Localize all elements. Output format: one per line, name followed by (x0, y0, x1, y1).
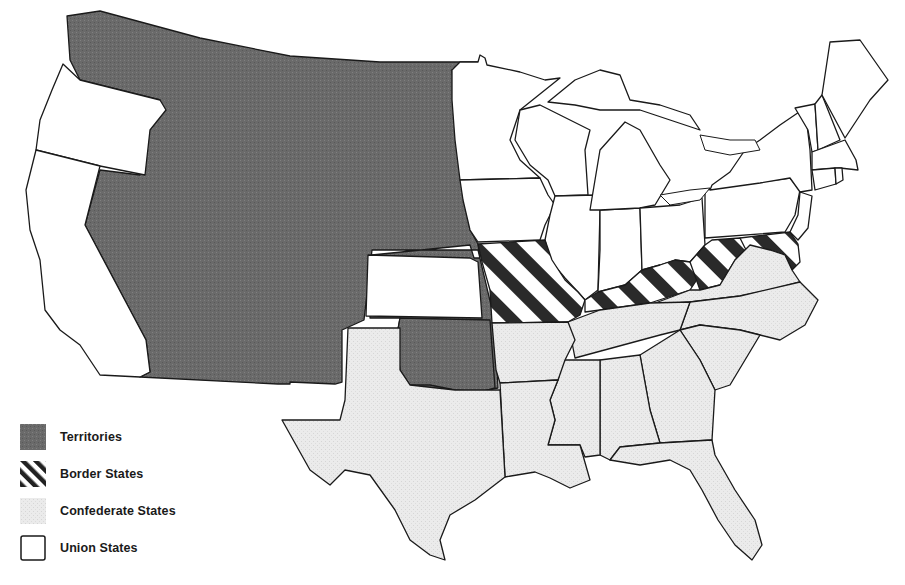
legend-label: Confederate States (60, 504, 176, 518)
confederate-states-swatch-icon (20, 498, 46, 524)
legend-item-confederate-states: Confederate States (20, 492, 220, 529)
state-rhode-island (835, 168, 843, 184)
legend-item-territories: Territories (20, 418, 220, 455)
state-connecticut (812, 168, 836, 190)
legend-label: Territories (60, 430, 122, 444)
state-kansas (366, 255, 482, 318)
state-florida (610, 440, 762, 560)
legend-item-border-states: Border States (20, 455, 220, 492)
legend-item-union-states: Union States (20, 529, 220, 566)
union-states-swatch-icon (20, 535, 46, 561)
border-states-swatch-icon (20, 461, 46, 487)
legend-label: Border States (60, 467, 143, 481)
map-legend: Territories Border States Confederate St… (20, 418, 220, 566)
territories-swatch-icon (20, 424, 46, 450)
legend-label: Union States (60, 541, 138, 555)
state-iowa (460, 178, 555, 242)
